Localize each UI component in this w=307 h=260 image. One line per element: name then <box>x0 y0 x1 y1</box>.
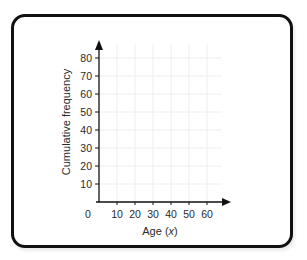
x-tick-label: 50 <box>183 208 195 220</box>
x-tick-label: 20 <box>129 208 141 220</box>
y-tick-label: 80 <box>80 52 92 64</box>
plot-area: 10203040506070801020304050600 <box>0 0 307 260</box>
y-tick-label: 60 <box>80 88 92 100</box>
x-tick-label: 10 <box>111 208 123 220</box>
x-axis-label: Age (x) <box>142 225 177 237</box>
y-tick-label: 10 <box>80 178 92 190</box>
x-tick-label: 40 <box>165 208 177 220</box>
y-tick-label: 30 <box>80 142 92 154</box>
y-tick-label: 40 <box>80 124 92 136</box>
y-axis-label: Cumulative frequency <box>60 69 72 175</box>
y-tick-label: 70 <box>80 70 92 82</box>
origin-label: 0 <box>85 208 91 220</box>
x-tick-label: 60 <box>201 208 213 220</box>
x-axis-arrow-icon <box>222 198 231 206</box>
y-tick-label: 50 <box>80 106 92 118</box>
y-axis-arrow-icon <box>95 40 103 50</box>
x-tick-label: 30 <box>147 208 159 220</box>
y-tick-label: 20 <box>80 160 92 172</box>
